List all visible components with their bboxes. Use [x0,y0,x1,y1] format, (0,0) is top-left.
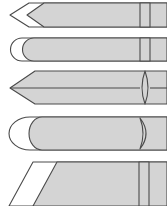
tip-3-conical [10,71,167,104]
tip-2-rounded [11,38,168,61]
tip-1-bevel-conical [10,3,167,27]
tip-4-rounded-large [9,117,167,150]
tip-shapes-diagram [0,0,167,206]
tip-5-angled-bevel [9,162,167,206]
